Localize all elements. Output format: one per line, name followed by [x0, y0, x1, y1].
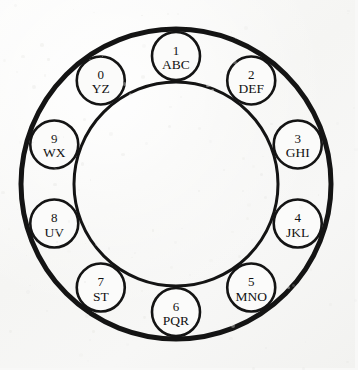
dial-key-5[interactable]: 5MNO — [227, 264, 275, 312]
dial-key-letters-7: ST — [93, 289, 110, 304]
dial-key-2[interactable]: 2DEF — [227, 56, 275, 104]
dial-key-6[interactable]: 6PQR — [152, 288, 200, 336]
dial-key-0[interactable]: 0YZ — [77, 56, 125, 104]
dial-key-letters-1: ABC — [162, 57, 190, 72]
dial-key-digit-4: 4 — [294, 210, 301, 225]
dial-key-digit-9: 9 — [51, 131, 58, 146]
dial-key-7[interactable]: 7ST — [77, 264, 125, 312]
dial-key-4[interactable]: 4JKL — [274, 200, 322, 248]
dial-key-digit-1: 1 — [173, 43, 180, 58]
dial-key-letters-6: PQR — [163, 313, 189, 328]
dial-key-8[interactable]: 8UV — [30, 200, 78, 248]
dial-inner-ring — [74, 82, 278, 286]
dial-key-digit-3: 3 — [294, 131, 301, 146]
dial-key-digit-6: 6 — [173, 299, 180, 314]
dial-key-letters-0: YZ — [92, 81, 110, 96]
dial-key-letters-4: JKL — [286, 225, 309, 240]
dial-key-digit-5: 5 — [248, 274, 255, 289]
dial-key-9[interactable]: 9WX — [30, 120, 78, 168]
dial-key-letters-8: UV — [45, 225, 65, 240]
dial-key-letters-9: WX — [43, 145, 66, 160]
dial-key-digit-8: 8 — [51, 210, 58, 225]
dial-key-3[interactable]: 3GHI — [274, 120, 322, 168]
dial-key-digit-7: 7 — [98, 274, 105, 289]
dial-key-letters-2: DEF — [238, 81, 264, 96]
dial-key-digit-2: 2 — [248, 67, 255, 82]
dial-key-letters-3: GHI — [286, 145, 310, 160]
dial-key-letters-5: MNO — [235, 289, 267, 304]
dial-key-digit-0: 0 — [98, 67, 105, 82]
dial-key-1[interactable]: 1ABC — [152, 32, 200, 80]
